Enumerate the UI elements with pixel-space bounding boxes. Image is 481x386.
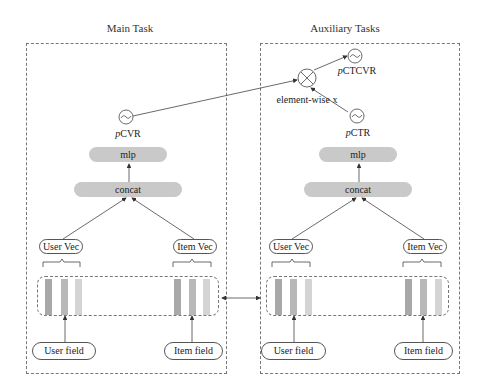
aux-user-vec: User Vec: [269, 239, 313, 254]
embedding-vector: [203, 279, 210, 315]
embedding-vector: [61, 279, 68, 315]
aux-item-field: Item field: [394, 342, 453, 360]
embedding-vector: [45, 279, 52, 315]
main-mlp-block: mlp: [89, 147, 167, 162]
embedding-vector: [435, 279, 442, 315]
embedding-vector: [189, 279, 196, 315]
embedding-vector: [405, 279, 412, 315]
main-concat-block: concat: [74, 182, 182, 197]
aux-item-vec: Item Vec: [403, 239, 447, 254]
main-user-vec: User Vec: [39, 239, 83, 254]
aux-mlp-block: mlp: [319, 147, 397, 162]
main-user-field: User field: [32, 342, 96, 360]
embedding-vector: [275, 279, 282, 315]
pctr-label: pCTR: [338, 127, 378, 138]
aux-user-field: User field: [261, 342, 326, 360]
embedding-vector: [420, 279, 427, 315]
element-wise-multiply-label: element-wise x: [272, 94, 342, 105]
main-item-vec: Item Vec: [173, 239, 217, 254]
multiply-icon: [298, 69, 316, 87]
embedding-vector: [305, 279, 312, 315]
pctcvr-label: pCTCVR: [332, 65, 382, 76]
pcvr-label: pCVR: [106, 128, 150, 139]
embedding-vector: [290, 279, 297, 315]
main-item-field: Item field: [164, 342, 223, 360]
sigmoid-icon: [119, 49, 364, 124]
embedding-vector: [75, 279, 82, 315]
embedding-vector: [174, 279, 181, 315]
aux-concat-block: concat: [304, 182, 412, 197]
